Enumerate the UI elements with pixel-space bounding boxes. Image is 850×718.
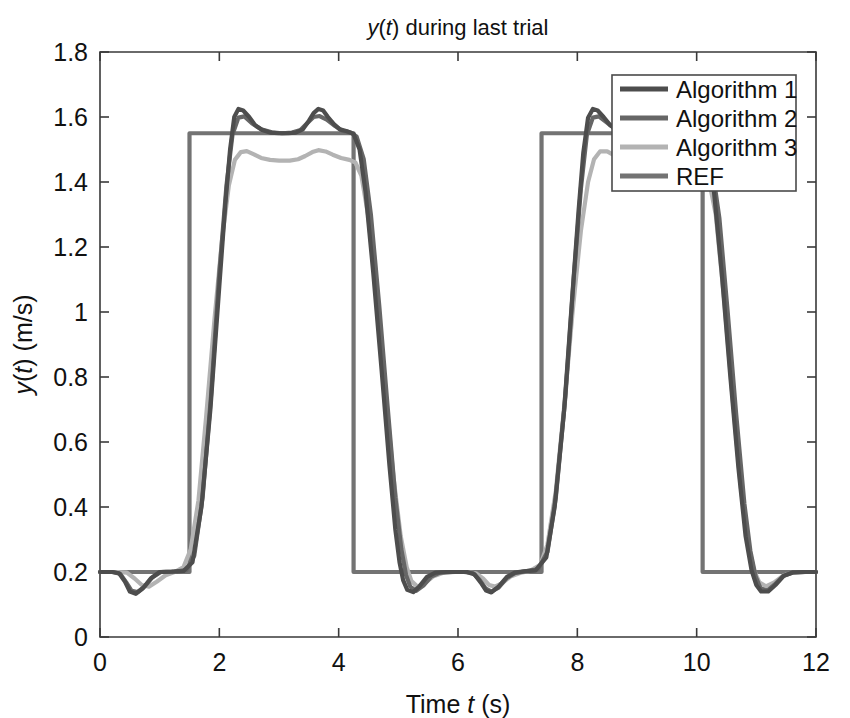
legend-label-algorithm-1[interactable]: Algorithm 1 — [676, 76, 797, 103]
y-tick-label: 0 — [74, 623, 88, 651]
y-tick-label: 1.4 — [53, 168, 88, 196]
x-tick-label: 4 — [332, 648, 346, 676]
x-axis-label-text: Time t (s) — [406, 690, 511, 718]
y-tick-label: 0.6 — [53, 428, 88, 456]
legend-label-ref[interactable]: REF — [676, 163, 724, 190]
chart-svg: y(t) during last trial 024681012 00.20.4… — [0, 0, 850, 718]
y-tick-label: 0.4 — [53, 493, 88, 521]
x-tick-label: 12 — [802, 648, 830, 676]
chart-title-text: y(t) during last trial — [366, 15, 549, 40]
y-tick-label: 0.2 — [53, 558, 88, 586]
x-tick-label: 6 — [451, 648, 465, 676]
x-axis-title: Time t (s) — [406, 690, 511, 718]
y-tick-label: 1.8 — [53, 38, 88, 66]
y-tick-label: 1.6 — [53, 103, 88, 131]
y-tick-label: 1.2 — [53, 233, 88, 261]
y-tick-label: 0.8 — [53, 363, 88, 391]
x-tick-label: 10 — [683, 648, 711, 676]
y-axis-title: y(t) (m/s) — [9, 295, 37, 397]
x-tick-label: 0 — [93, 648, 107, 676]
chart-legend[interactable]: Algorithm 1Algorithm 2Algorithm 3REF — [612, 75, 797, 191]
legend-label-algorithm-2[interactable]: Algorithm 2 — [676, 105, 797, 132]
y-tick-label: 1 — [74, 298, 88, 326]
chart-figure: y(t) during last trial 024681012 00.20.4… — [0, 0, 850, 718]
legend-label-algorithm-3[interactable]: Algorithm 3 — [676, 134, 797, 161]
chart-title: y(t) during last trial — [366, 15, 549, 40]
x-tick-label: 8 — [570, 648, 584, 676]
y-axis-label-text: y(t) (m/s) — [9, 295, 37, 397]
x-tick-label: 2 — [212, 648, 226, 676]
